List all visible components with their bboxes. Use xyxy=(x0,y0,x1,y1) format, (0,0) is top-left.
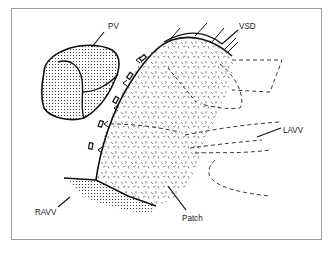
label-ravv: RAVV xyxy=(35,206,56,217)
pv-structure xyxy=(42,32,119,120)
lavv-arrow xyxy=(257,128,281,137)
label-patch: Patch xyxy=(182,212,203,223)
label-vsd: VSD xyxy=(239,20,256,31)
label-lavv: LAVV xyxy=(283,124,303,135)
label-pv: PV xyxy=(108,20,119,31)
